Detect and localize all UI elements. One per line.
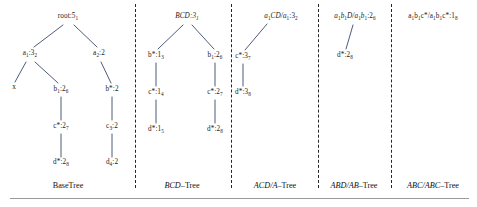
- edge-acd-cstar37: [245, 24, 267, 50]
- caption-bcd-tree: BCD–Tree: [164, 182, 199, 190]
- tree-edges: [0, 0, 477, 207]
- divider-2: [231, 4, 232, 188]
- node-b1-26: b1:26: [208, 52, 223, 59]
- caption-abc-abc-tree: ABC/ABC–Tree: [407, 182, 459, 190]
- divider-3: [318, 4, 319, 188]
- node-dstar-28: d*:28: [53, 159, 69, 166]
- edge-a2-bstar: [101, 62, 111, 83]
- node-a1: a1:32: [23, 50, 38, 57]
- divider-4: [391, 4, 392, 188]
- tree-figure: root:51 a1:32 a2:2 x b1:26 b*:2 c*:27 c3…: [0, 0, 477, 207]
- edge-bcd-b1: [192, 25, 214, 49]
- edge-abd-dstar28: [346, 25, 353, 49]
- caption-acd-a-tree: ACD/A–Tree: [254, 182, 296, 190]
- node-d4: d4:2: [106, 159, 118, 166]
- figure-baseline: [10, 198, 469, 199]
- node-a2: a2:2: [93, 50, 105, 57]
- node-root: root:51: [58, 13, 78, 20]
- node-dstar-38: d*:38: [235, 89, 251, 96]
- node-cstar-27b: c*:27: [207, 89, 222, 96]
- caption-base-tree: BaseTree: [53, 182, 84, 190]
- node-bstar-13: b*:13: [148, 52, 164, 59]
- node-dstar-15: d*:15: [148, 126, 164, 133]
- edge-a1-x: [15, 62, 26, 82]
- node-acd-root: a1CD/a1:32: [264, 13, 298, 20]
- node-bstar: b*:2: [105, 86, 118, 93]
- caption-abd-ab-tree: ABD/AB–Tree: [330, 182, 377, 190]
- node-cstar-27: c*:27: [53, 123, 68, 130]
- edge-root-a1: [34, 25, 63, 47]
- node-dstar-28c: d*:28: [337, 52, 353, 59]
- divider-1: [135, 4, 136, 188]
- node-cstar-37: c*:37: [235, 53, 250, 60]
- node-x: x: [12, 84, 16, 91]
- edge-bcd-bstar: [158, 25, 183, 49]
- node-b1: b1:26: [54, 86, 69, 93]
- node-abd-root: a1b1D/a1b1:26: [334, 13, 376, 20]
- node-abc-root: a1b1c*/a1b1c*:18: [408, 13, 457, 20]
- node-c3: c3:2: [106, 123, 118, 130]
- node-cstar-14: c*:14: [148, 89, 163, 96]
- node-dstar-28b: d*:28: [207, 126, 223, 133]
- node-bcd-root: BCD:31: [175, 13, 199, 20]
- edge-a1-b1: [35, 62, 58, 83]
- edge-root-a2: [74, 25, 97, 47]
